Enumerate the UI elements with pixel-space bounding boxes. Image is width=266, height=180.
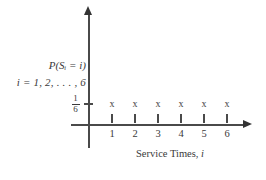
data-marker: x [221, 98, 233, 110]
y-axis-expression-line1: P(Sᵢ = i) [4, 57, 86, 74]
x-axis-tick-label: 1 [104, 127, 120, 140]
x-axis-tick-label: 5 [196, 127, 212, 140]
x-axis-caption: Service Times, i [95, 147, 245, 160]
fraction-denominator: 6 [69, 105, 82, 114]
x-axis-tick [203, 114, 204, 123]
x-axis-arrowhead-icon [243, 120, 252, 128]
fraction-numerator: 1 [69, 94, 82, 103]
x-axis-tick [180, 114, 181, 123]
data-marker: x [129, 98, 141, 110]
data-marker: x [152, 98, 164, 110]
x-axis-caption-text: Service Times, [136, 148, 198, 159]
x-axis-tick-label: 2 [127, 127, 143, 140]
y-axis-tick-one-sixth [84, 103, 93, 105]
y-axis-arrowhead-icon [84, 6, 92, 15]
x-axis-tick [111, 114, 112, 123]
data-marker: x [106, 98, 118, 110]
x-axis-tick [157, 114, 158, 123]
x-axis-tick [226, 114, 227, 123]
data-marker: x [198, 98, 210, 110]
x-axis-line [71, 124, 246, 126]
x-axis-tick-label: 6 [219, 127, 235, 140]
x-axis-tick [134, 114, 135, 123]
y-axis-line [88, 12, 90, 148]
probability-mass-function-figure: P(Sᵢ = i) i = 1, 2, . . . , 6 1 6 x x x … [0, 0, 266, 180]
y-axis-expression-line2: i = 1, 2, . . . , 6 [4, 74, 86, 91]
y-axis-expression-block: P(Sᵢ = i) i = 1, 2, . . . , 6 [4, 57, 86, 91]
x-axis-tick-label: 4 [173, 127, 189, 140]
x-axis-tick-label: 3 [150, 127, 166, 140]
x-axis-caption-variable: i [201, 148, 204, 159]
data-marker: x [175, 98, 187, 110]
y-axis-tick-label-one-sixth: 1 6 [69, 94, 82, 114]
